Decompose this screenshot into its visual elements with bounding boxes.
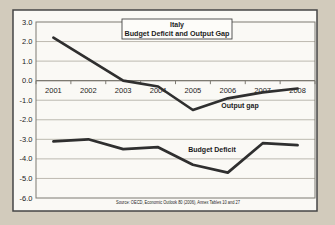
- slide-background: 3.02.01.00.0-1.0-2.0-3.0-4.0-5.0-6.02001…: [0, 0, 335, 225]
- chart-title-box: Italy Budget Deficit and Output Gap: [122, 19, 232, 39]
- x-axis-label: 2002: [80, 86, 97, 95]
- x-axis-label: 2006: [219, 86, 236, 95]
- y-axis-label: 2.0: [22, 37, 32, 46]
- budget-deficit-series-label: Budget Deficit: [188, 146, 236, 154]
- y-axis-label: -1.0: [20, 96, 33, 105]
- line-chart: 3.02.01.00.0-1.0-2.0-3.0-4.0-5.0-6.02001…: [0, 0, 335, 225]
- y-axis-label: 0.0: [22, 76, 32, 85]
- y-axis-label: -5.0: [20, 174, 33, 183]
- y-axis-label: 3.0: [22, 18, 32, 27]
- x-axis-label: 2005: [185, 86, 202, 95]
- y-axis-label: 1.0: [22, 57, 32, 66]
- y-axis-label: -3.0: [20, 135, 33, 144]
- x-axis-label: 2003: [115, 86, 132, 95]
- chart-subtitle: Budget Deficit and Output Gap: [124, 29, 230, 38]
- output-gap-series-label: Output gap: [221, 102, 258, 110]
- x-axis-label: 2001: [45, 86, 62, 95]
- source-note: Source: OECD, Economic Outlook 80 (2006)…: [116, 199, 240, 205]
- y-axis-label: -4.0: [20, 154, 33, 163]
- y-axis-label: -2.0: [20, 115, 33, 124]
- y-axis-label: -6.0: [20, 194, 33, 203]
